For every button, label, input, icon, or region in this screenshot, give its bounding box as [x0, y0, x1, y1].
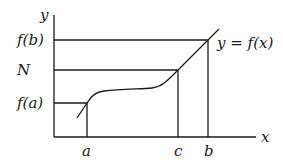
b-label: b	[204, 142, 214, 160]
ivt-diagram: y x f(b) N f(a) a c b y = f(x)	[0, 0, 283, 163]
y-axis-label: y	[39, 6, 49, 24]
n-label: N	[16, 61, 31, 79]
fb-label: f(b)	[16, 31, 44, 49]
fa-label: f(a)	[16, 94, 43, 112]
x-axis-label: x	[261, 128, 270, 146]
c-label: c	[174, 142, 183, 160]
function-curve	[77, 29, 219, 118]
curve-label: y = f(x)	[216, 34, 273, 52]
a-label: a	[82, 142, 91, 160]
